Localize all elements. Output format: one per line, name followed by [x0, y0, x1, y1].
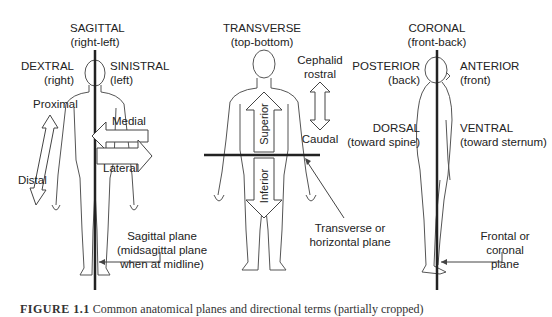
transverse-subtitle: (top-bottom): [222, 36, 302, 49]
posterior-label: POSTERIOR: [350, 60, 420, 73]
dorsal-sub: (toward spine): [340, 136, 420, 149]
figure-caption-text: Common anatomical planes and directional…: [93, 302, 424, 316]
coronal-plane-label-3: plane: [475, 258, 535, 271]
coronal-subtitle: (front-back): [400, 36, 474, 49]
inferior-label: Inferior: [258, 162, 270, 210]
proximal-distal-arrow: [30, 115, 58, 205]
proximal-label: Proximal: [33, 98, 78, 111]
coronal-title: CORONAL: [405, 22, 469, 35]
sinistral-label: SINISTRAL: [110, 60, 169, 73]
sagittal-plane-label-1: Sagittal plane: [112, 230, 212, 243]
distal-label: Distal: [18, 174, 47, 187]
transverse-plane-label-2: horizontal plane: [305, 236, 395, 249]
anterior-label: ANTERIOR: [460, 60, 519, 73]
transverse-title: TRANSVERSE: [222, 22, 302, 35]
superior-label: Superior: [258, 100, 270, 148]
caudal-label: Caudal: [295, 133, 345, 146]
dorsal-label: DORSAL: [340, 122, 420, 135]
figure-number: FIGURE 1.1: [20, 302, 90, 316]
cephalid-label: Cephalid: [295, 54, 345, 67]
dextral-label: DEXTRAL: [16, 60, 74, 73]
sagittal-title: SAGITTAL: [70, 22, 120, 35]
coronal-plane-label-1: Frontal or: [475, 230, 535, 243]
figure-caption: FIGURE 1.1 Common anatomical planes and …: [20, 302, 424, 317]
medial-label: Medial: [112, 115, 146, 128]
sagittal-plane-label-2: (midsagittal plane: [112, 244, 212, 257]
sagittal-subtitle: (right-left): [60, 36, 130, 49]
cephalid-caudal-arrow: [310, 82, 330, 130]
coronal-figure: [416, 57, 452, 274]
ventral-label: VENTRAL: [460, 122, 513, 135]
anterior-sub: (front): [460, 74, 491, 87]
posterior-sub: (back): [350, 74, 420, 87]
transverse-plane-label-1: Transverse or: [305, 222, 395, 235]
sinistral-sub: (left): [110, 74, 133, 87]
lateral-label: Lateral: [103, 162, 138, 175]
ventral-sub: (toward sternum): [460, 136, 547, 149]
dextral-sub: (right): [16, 74, 74, 87]
rostral-label: rostral: [295, 68, 345, 81]
coronal-plane-label-2: coronal: [475, 244, 535, 257]
sagittal-plane-label-3: when at midline): [112, 258, 212, 271]
